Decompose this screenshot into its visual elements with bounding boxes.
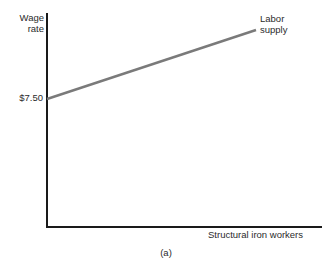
labor-supply-annotation-line2: supply (260, 25, 287, 36)
y-axis-label-line2: rate (0, 24, 44, 35)
figure-panel-a: Wage rate $7.50 Structural iron workers … (0, 0, 332, 269)
y-tick-label-750: $7.50 (0, 93, 43, 104)
y-axis-label-line1: Wage (0, 13, 44, 24)
labor-supply-annotation-line1: Labor (260, 14, 287, 25)
labor-supply-annotation: Labor supply (260, 14, 287, 35)
figure-caption: (a) (0, 248, 332, 259)
labor-supply-curve (47, 30, 256, 99)
x-axis-label: Structural iron workers (208, 230, 303, 241)
y-axis-label: Wage rate (0, 13, 44, 34)
